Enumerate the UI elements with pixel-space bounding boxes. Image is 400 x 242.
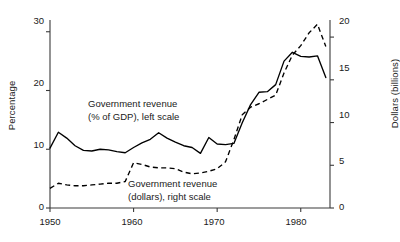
left-tick-label-10: 10 [22,139,44,150]
annotation-percentage-series: Government revenue (% of GDP), left scal… [88,98,179,123]
left-axis-ticks [46,32,50,208]
x-tick-label-1970: 1970 [194,216,234,227]
x-tick-label-1980: 1980 [276,216,316,227]
x-tick-label-1960: 1960 [112,216,152,227]
left-tick-label-20: 20 [22,77,44,88]
x-tick-label-1950: 1950 [30,216,70,227]
left-tick-label-0: 0 [22,201,44,212]
right-tick-label-5: 5 [339,155,361,166]
right-tick-label-10: 10 [339,109,361,120]
bottom-axis-ticks [50,208,301,212]
annotation-dollars-series: Government revenue (dollars), right scal… [128,178,217,203]
left-axis-title: Percentage [6,71,17,141]
annotation-percentage-line2: (% of GDP), left scale [88,111,179,124]
right-tick-label-0: 0 [339,201,361,212]
right-tick-label-15: 15 [339,62,361,73]
right-axis-ticks [330,37,334,208]
annotation-dollars-line1: Government revenue [128,178,217,191]
right-tick-label-20: 20 [339,15,361,26]
annotation-percentage-line1: Government revenue [88,98,179,111]
annotation-dollars-line2: (dollars), right scale [128,191,217,204]
left-tick-label-30: 30 [22,15,44,26]
right-axis-title: Dollars (billions) [389,44,400,144]
